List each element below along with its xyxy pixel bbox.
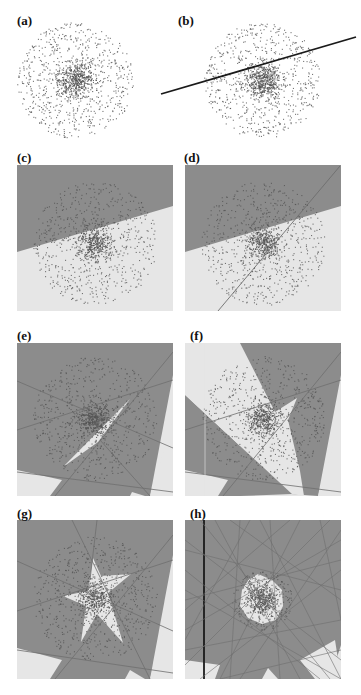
panel-label-b: (b) bbox=[178, 14, 194, 27]
panel-label-g: (g) bbox=[17, 507, 32, 520]
panel-d bbox=[185, 165, 341, 311]
panel-label-c: (c) bbox=[17, 151, 31, 164]
panel-b bbox=[161, 24, 356, 138]
panel-g bbox=[17, 520, 173, 679]
panel-label-e: (e) bbox=[17, 329, 31, 342]
panel-label-f: (f) bbox=[190, 329, 203, 342]
panel-label-h: (h) bbox=[190, 507, 206, 520]
panel-e bbox=[17, 343, 173, 496]
panel-label-d: (d) bbox=[184, 151, 200, 164]
panel-f bbox=[185, 343, 341, 496]
panel-a bbox=[17, 23, 134, 139]
panel-c bbox=[17, 165, 173, 311]
data-points bbox=[17, 23, 134, 139]
figure-canvas bbox=[0, 0, 361, 695]
panel-h bbox=[185, 520, 341, 679]
panel-label-a: (a) bbox=[17, 14, 32, 27]
classified-region bbox=[17, 343, 173, 496]
data-points bbox=[204, 24, 320, 138]
